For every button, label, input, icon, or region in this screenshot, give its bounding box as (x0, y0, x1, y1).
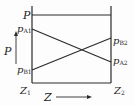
label-pB2: pB2 (113, 35, 128, 46)
pressure-b-line (32, 38, 111, 70)
z-axis-arrowhead-icon (87, 95, 92, 99)
label-pB1: pB1 (17, 64, 32, 75)
label-z1: Z1 (19, 85, 31, 96)
z-axis-label: Z (43, 91, 52, 104)
label-pA2: pA2 (113, 55, 128, 66)
p-axis-label: P (3, 45, 12, 58)
label-z2: Z2 (113, 85, 125, 96)
label-pA1: pA1 (17, 23, 32, 34)
pressure-diagram: P pA1 P pB1 pB2 pA2 Z1 Z2 Z (0, 0, 135, 106)
pressure-a-line (32, 29, 111, 62)
total-pressure-label: P (22, 9, 31, 22)
